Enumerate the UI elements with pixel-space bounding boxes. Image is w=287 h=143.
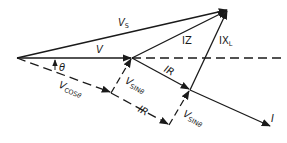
label-theta: θ [59, 63, 65, 73]
label-i: I [271, 114, 274, 124]
label-vs: VS [118, 18, 129, 30]
phasor-diagram [0, 0, 287, 143]
iz-phasor [132, 11, 226, 58]
ixl-phasor [190, 11, 227, 90]
label-v: V [96, 45, 103, 55]
label-iz: IZ [182, 36, 192, 46]
label-ixl: IXL [219, 36, 232, 48]
